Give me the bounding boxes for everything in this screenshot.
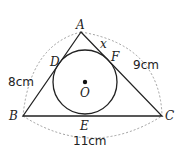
measure-bc: 11cm <box>73 134 107 148</box>
label-b: B <box>8 109 18 123</box>
triangle-abc <box>23 32 162 116</box>
label-f: F <box>110 50 120 64</box>
label-o: O <box>80 86 90 100</box>
measure-ac: 9cm <box>133 58 159 72</box>
center-point-o <box>83 80 87 84</box>
label-d: D <box>49 55 60 69</box>
incircle-diagram: A B C D E F O x 8cm 9cm 11cm <box>0 0 183 161</box>
label-e: E <box>79 119 89 133</box>
label-c: C <box>165 109 174 123</box>
label-x: x <box>100 37 107 51</box>
measure-ab: 8cm <box>8 75 34 89</box>
label-a: A <box>75 18 85 32</box>
